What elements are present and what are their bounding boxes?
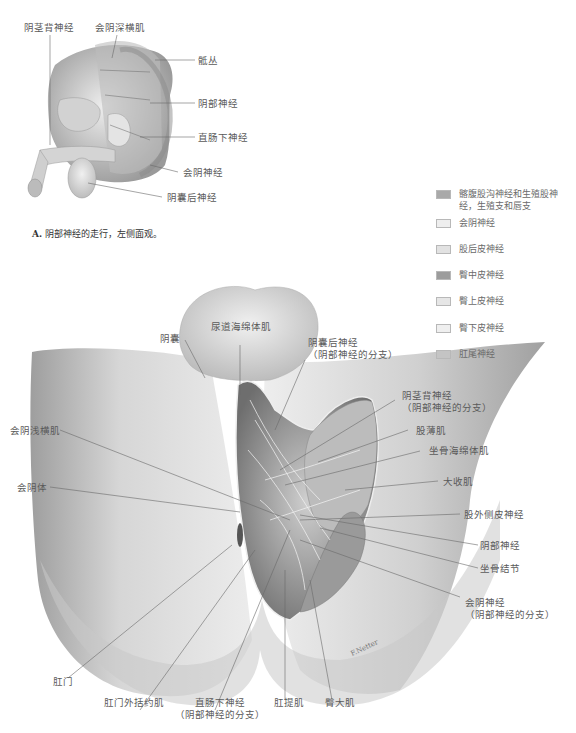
legend-swatch bbox=[436, 190, 451, 199]
label-line-1: 阴茎背神经 bbox=[402, 390, 492, 402]
label-gracilis: 股薄肌 bbox=[416, 425, 446, 437]
legend-label: 会阴神经 bbox=[459, 217, 571, 229]
anatomical-illustration: F.Netter bbox=[0, 0, 576, 733]
label-levator-ani: 肛提肌 bbox=[274, 697, 304, 709]
label-pudendal-nerve-a: 阴部神经 bbox=[198, 98, 238, 110]
caption-letter: A. bbox=[32, 229, 42, 239]
label-dorsal-penile-nerve-b: 阴茎背神经 （阴部神经的分支） bbox=[402, 390, 492, 414]
legend-label: 臀上皮神经 bbox=[459, 295, 571, 307]
figure-a-caption: A. 阴部神经的走行，左侧面观。 bbox=[32, 227, 162, 240]
legend-swatch bbox=[436, 297, 451, 306]
legend-label: 臀中皮神经 bbox=[459, 269, 571, 281]
legend-item: 肛尾神经 bbox=[436, 348, 571, 360]
label-inferior-rectal-nerve-b: 直肠下神经 （阴部神经的分支） bbox=[175, 697, 265, 721]
label-scrotum: 阴囊 bbox=[160, 333, 180, 345]
legend-item: 臀上皮神经 bbox=[436, 295, 571, 307]
legend-label: 臀下皮神经 bbox=[459, 322, 571, 334]
legend-item: 臀下皮神经 bbox=[436, 322, 571, 334]
label-perineal-body: 会阴体 bbox=[17, 482, 47, 494]
legend-item: 会阴神经 bbox=[436, 217, 571, 229]
label-anus: 肛门 bbox=[53, 676, 73, 688]
label-line-1: 直肠下神经 bbox=[175, 697, 265, 709]
label-pudendal-nerve-b: 阴部神经 bbox=[480, 540, 520, 552]
legend-swatch bbox=[436, 219, 451, 228]
legend-label: 肛尾神经 bbox=[459, 348, 571, 360]
label-line-2: （阴部神经的分支） bbox=[308, 349, 398, 361]
label-deep-transverse-perineal: 会阴深横肌 bbox=[95, 22, 145, 34]
label-ischiocavernosus: 坐骨海绵体肌 bbox=[429, 445, 489, 457]
label-line-1: 阴囊后神经 bbox=[308, 337, 398, 349]
legend-label: 髂腹股沟神经和生殖股神经，生殖支和唇支 bbox=[459, 188, 571, 212]
legend-swatch bbox=[436, 350, 451, 359]
label-adductor-magnus: 大收肌 bbox=[443, 476, 473, 488]
legend-label: 股后皮神经 bbox=[459, 243, 571, 255]
label-line-2: （阴部神经的分支） bbox=[402, 402, 492, 414]
label-perineal-nerve-b: 会阴神经 （阴部神经的分支） bbox=[465, 597, 555, 621]
legend-item: 髂腹股沟神经和生殖股神经，生殖支和唇支 bbox=[436, 188, 571, 212]
label-line-2: （阴部神经的分支） bbox=[465, 609, 555, 621]
label-external-anal-sphincter: 肛门外括约肌 bbox=[104, 697, 164, 709]
figure-a-illustration bbox=[28, 41, 173, 198]
label-dorsal-penile-nerve-a: 阴茎背神经 bbox=[24, 22, 74, 34]
label-line-2: （阴部神经的分支） bbox=[175, 709, 265, 721]
label-lateral-femoral-cutaneous: 股外侧皮神经 bbox=[464, 509, 524, 521]
legend-item: 臀中皮神经 bbox=[436, 269, 571, 281]
label-bulbospongiosus: 尿道海绵体肌 bbox=[211, 321, 271, 333]
legend-item: 股后皮神经 bbox=[436, 243, 571, 255]
legend-swatch bbox=[436, 245, 451, 254]
label-ischial-tuberosity: 坐骨结节 bbox=[480, 563, 520, 575]
label-gluteus-maximus: 臀大肌 bbox=[325, 697, 355, 709]
label-inferior-rectal-nerve-a: 直肠下神经 bbox=[198, 132, 248, 144]
label-perineal-nerve-a: 会阴神经 bbox=[183, 167, 223, 179]
label-superficial-transverse-perineal: 会阴浅横肌 bbox=[10, 425, 60, 437]
legend-swatch bbox=[436, 271, 451, 280]
legend-swatch bbox=[436, 324, 451, 333]
label-line-1: 会阴神经 bbox=[465, 597, 555, 609]
label-sacral-plexus: 骶丛 bbox=[198, 55, 218, 67]
caption-text: 阴部神经的走行，左侧面观。 bbox=[45, 229, 162, 239]
label-posterior-scrotal-nerve-a: 阴囊后神经 bbox=[167, 192, 217, 204]
label-posterior-scrotal-nerve-b: 阴囊后神经 （阴部神经的分支） bbox=[308, 337, 398, 361]
